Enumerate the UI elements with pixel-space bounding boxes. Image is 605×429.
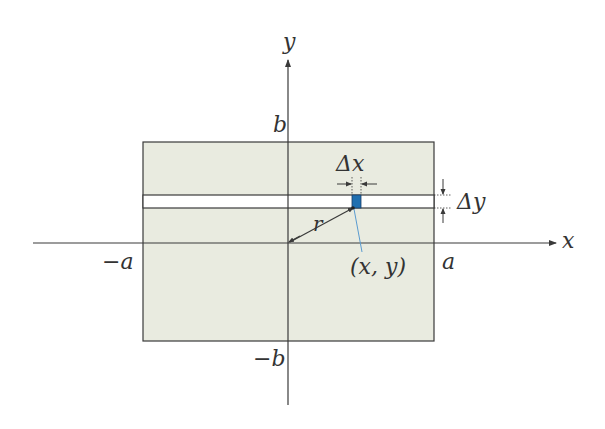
- delta-x-label: Δx: [335, 151, 365, 176]
- tick-label-neg-b: −b: [253, 346, 286, 371]
- point-label: (x, y): [350, 254, 406, 279]
- tick-label-pos-b: b: [273, 112, 287, 137]
- radius-label: r: [313, 212, 324, 236]
- x-axis-label: x: [562, 228, 575, 253]
- delta-y-label: Δy: [456, 189, 486, 214]
- area-element: [352, 195, 361, 208]
- diagram-canvas: y x b −b −a a Δx Δy r (x, y): [0, 0, 605, 429]
- y-axis-label: y: [282, 29, 296, 54]
- tick-label-pos-a: a: [442, 249, 455, 274]
- tick-label-neg-a: −a: [102, 249, 134, 274]
